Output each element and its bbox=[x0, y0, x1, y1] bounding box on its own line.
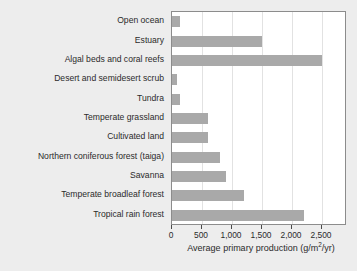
bar bbox=[172, 113, 208, 124]
category-label: Cultivated land bbox=[107, 131, 164, 142]
x-tick-label: 500 bbox=[194, 230, 208, 240]
x-tick bbox=[171, 225, 172, 229]
bar bbox=[172, 74, 177, 85]
category-label: Temperate grassland bbox=[84, 112, 164, 123]
bar bbox=[172, 16, 180, 27]
category-label: Desert and semidesert scrub bbox=[54, 73, 164, 84]
x-tick bbox=[291, 225, 292, 229]
bar bbox=[172, 36, 262, 47]
category-label: Savanna bbox=[130, 170, 164, 181]
bar bbox=[172, 190, 244, 201]
plot-area bbox=[171, 11, 346, 225]
bar bbox=[172, 55, 322, 66]
category-axis-labels: Open oceanEstuaryAlgal beds and coral re… bbox=[0, 11, 168, 225]
category-label: Estuary bbox=[135, 35, 164, 46]
category-label: Algal beds and coral reefs bbox=[65, 54, 164, 65]
bar bbox=[172, 152, 220, 163]
bar bbox=[172, 210, 304, 221]
category-label: Tropical rain forest bbox=[93, 209, 164, 220]
bar bbox=[172, 132, 208, 143]
x-tick bbox=[261, 225, 262, 229]
x-tick-label: 1,500 bbox=[251, 230, 272, 240]
x-tick bbox=[321, 225, 322, 229]
x-tick-label: 0 bbox=[169, 230, 174, 240]
category-label: Tundra bbox=[137, 93, 164, 104]
x-tick-label: 1,000 bbox=[221, 230, 242, 240]
x-tick-label: 2,500 bbox=[311, 230, 332, 240]
category-label: Open ocean bbox=[117, 15, 164, 26]
category-label: Temperate broadleaf forest bbox=[61, 189, 164, 200]
category-label: Northern coniferous forest (taiga) bbox=[38, 151, 164, 162]
bar bbox=[172, 94, 180, 105]
bar-series bbox=[172, 12, 345, 224]
x-tick-label: 2,000 bbox=[281, 230, 302, 240]
x-tick bbox=[201, 225, 202, 229]
x-axis-title: Average primary production (g/m2/yr) bbox=[171, 243, 351, 253]
x-tick bbox=[231, 225, 232, 229]
bar-chart-figure: Open oceanEstuaryAlgal beds and coral re… bbox=[0, 0, 357, 271]
bar bbox=[172, 171, 226, 182]
